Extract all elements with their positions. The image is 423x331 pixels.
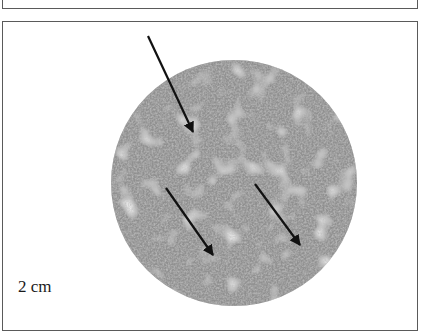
scale-label: 2 cm [18, 277, 52, 297]
specimen-disc [103, 52, 373, 322]
main-panel-frame [2, 21, 418, 331]
specimen-figure [3, 22, 418, 331]
top-panel-frame [2, 0, 418, 9]
